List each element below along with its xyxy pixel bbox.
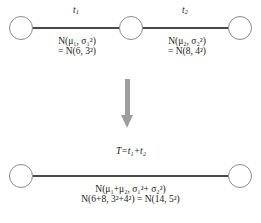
edge-segment-t1 — [32, 27, 120, 29]
node-end-bottom — [228, 164, 252, 188]
edge-label-t1-subscript: 1 — [76, 8, 79, 15]
edge-label-t2: t2 — [165, 6, 205, 16]
arrow-head — [121, 115, 133, 128]
down-arrow-icon — [121, 79, 134, 129]
distribution-total-line-2: N(6+8, 3²+4²) = N(14, 5²) — [32, 195, 229, 205]
distribution-label-total: N(μ₁+μ₂, σ₁²+ σ₂²) N(6+8, 3²+4²) = N(14,… — [32, 185, 229, 205]
edge-label-t2-subscript: 2 — [185, 8, 188, 15]
distribution-label-segment-1: N(μ₁, σ₁²) = N(6, 3²) — [30, 37, 124, 57]
edge-label-t1: t1 — [56, 6, 96, 16]
edge-segment-total — [32, 175, 229, 177]
node-start-bottom — [9, 164, 33, 188]
edge-segment-t2 — [142, 27, 229, 29]
edge-label-total: T=t₁+t₂ — [91, 147, 171, 157]
distribution-2-line-2: = N(8, 4²) — [140, 47, 234, 57]
distribution-1-line-2: = N(6, 3²) — [30, 47, 124, 57]
edge-label-total-text: T=t₁+t₂ — [116, 146, 146, 156]
normal-sum-diagram: t1 t2 N(μ₁, σ₁²) = N(6, 3²) N(μ₂, σ₂²) =… — [0, 0, 261, 223]
arrow-shaft — [125, 79, 130, 116]
distribution-label-segment-2: N(μ₂, σ₂²) = N(8, 4²) — [140, 37, 234, 57]
